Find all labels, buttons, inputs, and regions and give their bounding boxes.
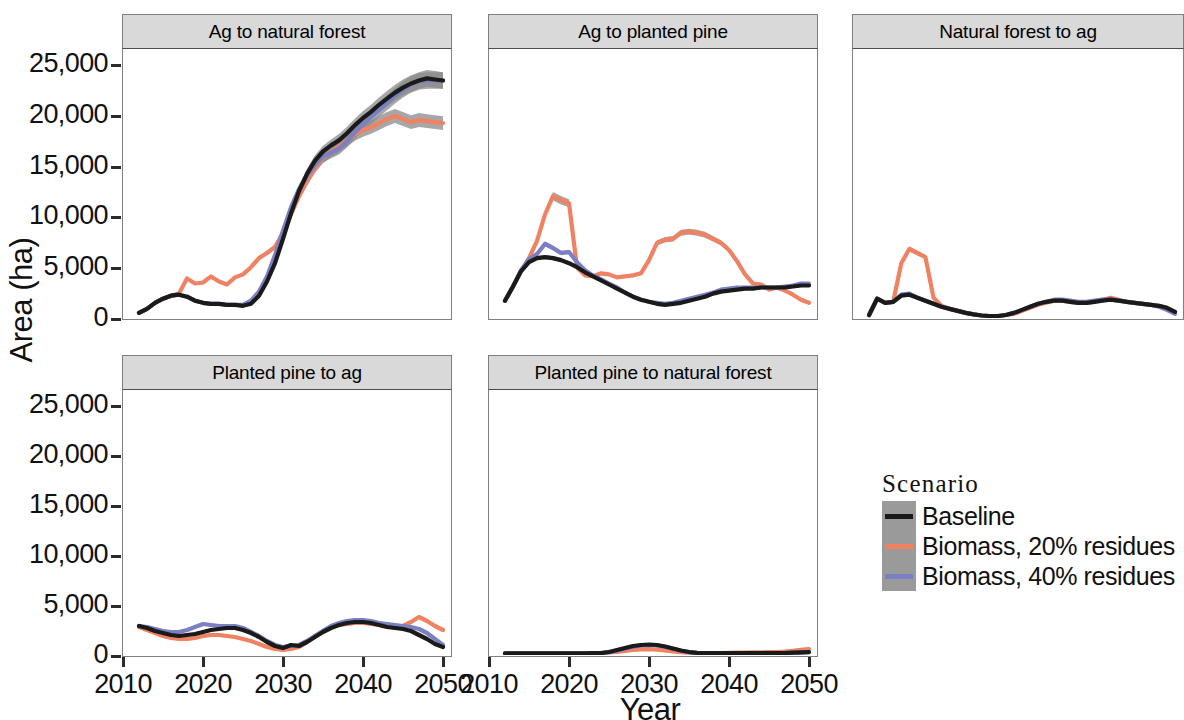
x-tick-mark [808,657,811,667]
confidence-ribbon [139,70,443,314]
x-tick-mark [122,657,125,667]
series-canvas [489,49,817,318]
panel-title-2: Natural forest to ag [852,14,1184,49]
y-tick-mark [111,318,121,321]
y-tick-mark [111,455,121,458]
series-line [505,244,809,304]
y-tick-label: 5,000 [0,589,108,620]
legend-line-sample [885,574,913,579]
y-tick-label: 0 [0,302,108,333]
legend-line-sample [885,514,913,519]
legend-item[interactable]: Biomass, 20% residues [882,531,1175,561]
x-tick-label: 2040 [323,669,403,700]
x-tick-mark [282,657,285,667]
legend-title: Scenario [882,470,1175,498]
x-tick-mark [442,657,445,667]
y-tick-label: 20,000 [0,99,108,130]
legend-item[interactable]: Biomass, 40% residues [882,561,1175,591]
plot-area-3 [122,390,452,657]
y-tick-label: 20,000 [0,439,108,470]
panel-planted-pine-to-ag: Planted pine to ag [122,355,452,657]
confidence-ribbon [869,247,1175,318]
panel-title-1: Ag to planted pine [488,14,818,49]
y-tick-mark [111,505,121,508]
y-tick-mark [111,405,121,408]
x-tick-label: 2010 [449,669,529,700]
legend-items: BaselineBiomass, 20% residuesBiomass, 40… [882,501,1175,591]
plot-area-1 [488,49,818,320]
plot-area-4 [488,390,818,657]
plot-area-0 [122,49,452,320]
y-tick-label: 0 [0,639,108,670]
y-tick-mark [111,655,121,658]
legend: Scenario BaselineBiomass, 20% residuesBi… [882,470,1175,591]
series-line [869,249,1175,316]
y-tick-mark [111,115,121,118]
confidence-ribbon [505,255,809,306]
series-canvas [489,390,817,655]
series-line [505,257,809,305]
x-tick-label: 2030 [609,669,689,700]
confidence-ribbon [505,241,809,305]
legend-item-label: Baseline [922,502,1015,531]
confidence-ribbon [139,72,443,314]
panel-ag-to-natural-forest: Ag to natural forest [122,14,452,320]
legend-item-label: Biomass, 20% residues [922,532,1175,561]
y-tick-mark [111,216,121,219]
x-tick-mark [488,657,491,667]
legend-line-sample [885,544,913,549]
panel-title-0: Ag to natural forest [122,14,452,49]
legend-item[interactable]: Baseline [882,501,1175,531]
y-tick-label: 25,000 [0,389,108,420]
y-tick-mark [111,64,121,67]
legend-key-swatch [882,531,916,561]
legend-item-label: Biomass, 40% residues [922,562,1175,591]
y-tick-label: 25,000 [0,48,108,79]
legend-key-swatch [882,561,916,591]
panel-title-3: Planted pine to ag [122,355,452,390]
panel-natural-forest-to-ag: Natural forest to ag [852,14,1184,320]
y-tick-label: 10,000 [0,539,108,570]
x-tick-mark [362,657,365,667]
x-tick-label: 2050 [769,669,849,700]
y-tick-mark [111,166,121,169]
x-tick-label: 2020 [529,669,609,700]
y-tick-label: 15,000 [0,150,108,181]
y-tick-label: 5,000 [0,251,108,282]
series-canvas [853,49,1183,318]
x-tick-mark [728,657,731,667]
legend-key-swatch [882,501,916,531]
plot-area-2 [852,49,1184,320]
panel-title-4: Planted pine to natural forest [488,355,818,390]
x-tick-label: 2010 [83,669,163,700]
y-tick-mark [111,605,121,608]
x-tick-label: 2030 [243,669,323,700]
panel-ag-to-planted-pine: Ag to planted pine [488,14,818,320]
y-tick-mark [111,555,121,558]
x-tick-label: 2020 [163,669,243,700]
x-tick-mark [568,657,571,667]
x-tick-mark [648,657,651,667]
series-canvas [123,390,451,655]
panel-planted-pine-to-natural-forest: Planted pine to natural forest [488,355,818,657]
y-tick-label: 15,000 [0,489,108,520]
x-tick-mark [202,657,205,667]
x-tick-label: 2040 [689,669,769,700]
series-canvas [123,49,451,318]
y-tick-label: 10,000 [0,200,108,231]
y-tick-mark [111,267,121,270]
